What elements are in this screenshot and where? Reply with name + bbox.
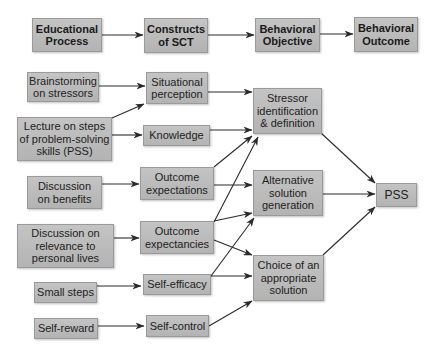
construct-knowledge: Knowledge: [143, 125, 210, 146]
construct-outcome-expectations: Outcome expectations: [140, 167, 214, 200]
edu-self-reward: Self-reward: [34, 318, 98, 339]
objective-stressor-identification: Stressor identification & definition: [253, 88, 322, 134]
objective-choice-of-solution: Choice of an appropriate solution: [253, 255, 324, 301]
arrow-c6-o3: [209, 301, 252, 326]
header-educational-process: Educational Process: [32, 18, 102, 52]
objective-alternative-solution-generation: Alternative solution generation: [253, 170, 323, 216]
scT-pss-flow-diagram: Educational Process Constructs of SCT Be…: [0, 0, 436, 354]
arrow-c5-o2: [211, 218, 254, 276]
header-behavioral-objective: Behavioral Objective: [255, 18, 320, 52]
header-behavioral-outcome: Behavioral Outcome: [354, 17, 418, 52]
edu-discussion-on-benefits: Discussion on benefits: [27, 176, 102, 209]
edu-lecture-on-pss-steps: Lecture on steps of problem-solving skil…: [17, 117, 112, 161]
construct-outcome-expectancies: Outcome expectancies: [140, 221, 214, 254]
arrow-c4-o3: [214, 240, 252, 255]
arrow-o1-p1: [321, 133, 375, 183]
construct-self-efficacy: Self-efficacy: [143, 274, 211, 295]
construct-self-control: Self-control: [146, 315, 209, 337]
arrow-e2-c1: [112, 104, 144, 118]
header-constructs-of-sct: Constructs of SCT: [144, 18, 208, 53]
edu-discussion-on-relevance: Discussion on relevance to personal live…: [17, 224, 114, 268]
construct-situational-perception: Situational perception: [146, 72, 208, 104]
outcome-pss: PSS: [376, 183, 417, 207]
arrow-c3-o1: [214, 136, 252, 167]
edu-brainstorming-on-stressors: Brainstorming on stressors: [27, 72, 99, 102]
arrow-c4-o2: [214, 213, 252, 221]
arrow-o3-p1: [323, 207, 375, 255]
edu-small-steps: Small steps: [34, 282, 97, 303]
